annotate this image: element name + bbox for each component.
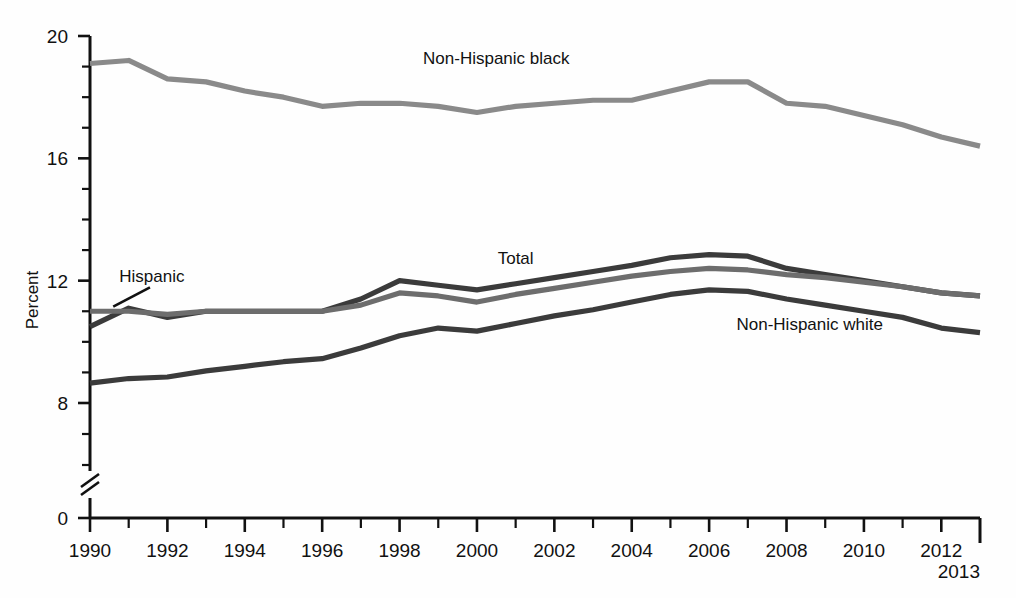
x-tick-label-2010: 2010 [843, 540, 885, 561]
y-tick-label-0: 0 [57, 508, 68, 529]
series-label-non-hispanic-white: Non-Hispanic white [737, 315, 883, 334]
y-tick-label-12: 12 [47, 271, 68, 292]
x-tick-label-2008: 2008 [765, 540, 807, 561]
x-tick-label-2004: 2004 [611, 540, 654, 561]
x-tick-label-2012: 2012 [920, 540, 962, 561]
x-tick-label-1994: 1994 [224, 540, 267, 561]
line-chart-svg: 20161280 1990199219941996199820002002200… [0, 0, 1016, 598]
x-tick-label-1998: 1998 [378, 540, 420, 561]
series-label-hispanic: Hispanic [119, 267, 185, 286]
series-label-total: Total [498, 249, 534, 268]
x-tick-label-2000: 2000 [456, 540, 498, 561]
chart-figure: 20161280 1990199219941996199820002002200… [0, 0, 1016, 598]
y-tick-label-20: 20 [47, 26, 68, 47]
x-axis-end-label: 2013 [938, 561, 980, 582]
y-tick-label-8: 8 [57, 393, 68, 414]
x-tick-label-2006: 2006 [688, 540, 730, 561]
y-tick-label-16: 16 [47, 148, 68, 169]
y-axis-break-icon [81, 471, 99, 498]
plot-background [0, 0, 1016, 598]
x-tick-label-1992: 1992 [146, 540, 188, 561]
x-tick-label-2002: 2002 [533, 540, 575, 561]
series-label-non-hispanic-black: Non-Hispanic black [423, 49, 570, 68]
x-tick-label-1996: 1996 [301, 540, 343, 561]
y-axis-title: Percent [23, 270, 42, 329]
x-tick-label-1990: 1990 [69, 540, 111, 561]
